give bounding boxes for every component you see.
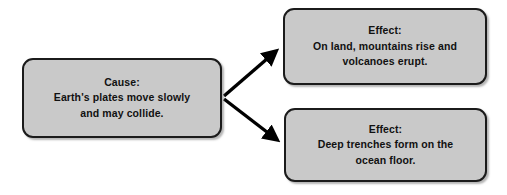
effect-box-top: Effect: On land, mountains rise and volc…	[283, 8, 487, 85]
effect-box-top-label: Effect:	[368, 23, 401, 39]
effect-box-bottom: Effect: Deep trenches form on the ocean …	[284, 108, 487, 182]
effect-box-bottom-line-1: Deep trenches form on the	[318, 137, 454, 153]
effect-box-bottom-label: Effect:	[369, 122, 402, 138]
cause-box-line-2: and may collide.	[80, 106, 163, 122]
cause-box: Cause: Earth's plates move slowly and ma…	[22, 58, 222, 138]
effect-box-top-line-2: volcanoes erupt.	[342, 54, 427, 70]
arrow-cause-to-effect-bottom	[224, 99, 276, 139]
effect-box-top-line-1: On land, mountains rise and	[313, 39, 457, 55]
arrow-cause-to-effect-top	[224, 52, 275, 96]
cause-box-line-1: Earth's plates move slowly	[54, 90, 190, 106]
cause-box-label: Cause:	[104, 75, 140, 91]
effect-box-bottom-line-2: ocean floor.	[355, 153, 415, 169]
cause-effect-diagram: Cause: Earth's plates move slowly and ma…	[0, 0, 507, 195]
